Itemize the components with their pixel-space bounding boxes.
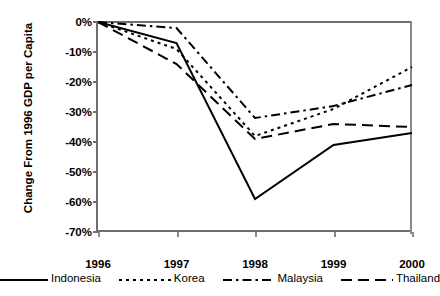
series-line-thailand [98,22,412,139]
legend-item-indonesia[interactable]: Indonesia [0,272,101,284]
legend-item-thailand[interactable]: Thailand [341,272,440,284]
x-axis-tick-mark [334,232,336,237]
y-axis-tick-label: -20% [6,76,98,88]
legend-label: Thailand [396,272,440,284]
y-axis-tick-mark [93,51,98,53]
legend-swatch-icon [341,272,393,284]
series-lines [98,22,412,232]
series-line-malaysia [98,22,412,118]
y-axis-tick-mark [93,141,98,143]
legend-item-korea[interactable]: Korea [119,272,205,284]
y-axis-tick-label: -50% [6,166,98,178]
legend-label: Indonesia [51,272,101,284]
y-axis-tick-mark [93,21,98,23]
series-line-indonesia [98,22,412,199]
x-axis-tick-mark [412,232,414,237]
legend-swatch-icon [223,272,275,284]
y-axis-tick-label: -30% [6,106,98,118]
y-axis-tick-label: -10% [6,46,98,58]
x-axis-tick-mark [177,232,179,237]
x-axis-tick-mark [255,232,257,237]
y-axis-tick-label: -70% [6,226,98,238]
y-axis-tick-label: -40% [6,136,98,148]
x-axis-tick-mark [98,232,100,237]
y-axis-tick-mark [93,171,98,173]
legend-swatch-icon [119,272,171,284]
y-axis-tick-mark [93,81,98,83]
y-axis-tick-mark [93,201,98,203]
y-axis-tick-mark [93,111,98,113]
plot-area: 0%-10%-20%-30%-40%-50%-60%-70%1996199719… [96,22,410,232]
legend-label: Korea [174,272,205,284]
y-axis-tick-label: -60% [6,196,98,208]
legend-swatch-icon [0,272,48,284]
legend-item-malaysia[interactable]: Malaysia [223,272,323,284]
chart-legend: IndonesiaKoreaMalaysiaThailand [0,266,436,290]
y-axis-tick-label: 0% [6,16,98,28]
legend-label: Malaysia [278,272,323,284]
